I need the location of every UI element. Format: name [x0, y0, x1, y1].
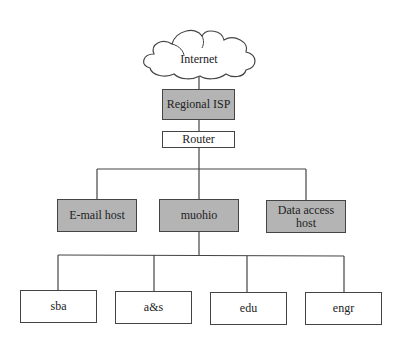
- node-label: engr: [333, 302, 354, 315]
- node-label: sba: [51, 300, 67, 313]
- node-label: muohio: [181, 209, 218, 222]
- router-node: Router: [162, 131, 235, 148]
- node-label: Router: [182, 133, 215, 146]
- sba-node: sba: [20, 290, 97, 323]
- node-label-line2: host: [296, 217, 316, 230]
- regional-isp-node: Regional ISP: [162, 89, 235, 120]
- muohio-node: muohio: [159, 199, 239, 232]
- node-label: Regional ISP: [167, 98, 231, 111]
- internet-label: Internet: [170, 52, 228, 67]
- engr-node: engr: [305, 292, 382, 325]
- node-label-line1: Data access: [278, 204, 334, 217]
- node-label: a&s: [144, 301, 163, 314]
- email-host-node: E-mail host: [57, 199, 137, 232]
- edu-node: edu: [210, 292, 287, 325]
- node-label: E-mail host: [69, 209, 125, 222]
- as-node: a&s: [115, 291, 192, 324]
- node-label: edu: [240, 302, 257, 315]
- data-access-host-node: Data access host: [266, 200, 346, 233]
